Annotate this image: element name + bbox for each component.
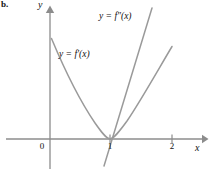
tick-label-1: 1 <box>104 141 116 151</box>
graph-figure: b. y x 0 1 2 y = f″(x) y = f′(x) <box>0 0 212 169</box>
curve-label-first-derivative: y = f′(x) <box>59 49 90 59</box>
tick-label-0: 0 <box>36 141 48 151</box>
y-axis-label: y <box>38 0 42 10</box>
curve-label-second-derivative: y = f″(x) <box>99 11 132 21</box>
x-axis-label: x <box>195 142 199 153</box>
tick-label-2: 2 <box>166 141 178 151</box>
